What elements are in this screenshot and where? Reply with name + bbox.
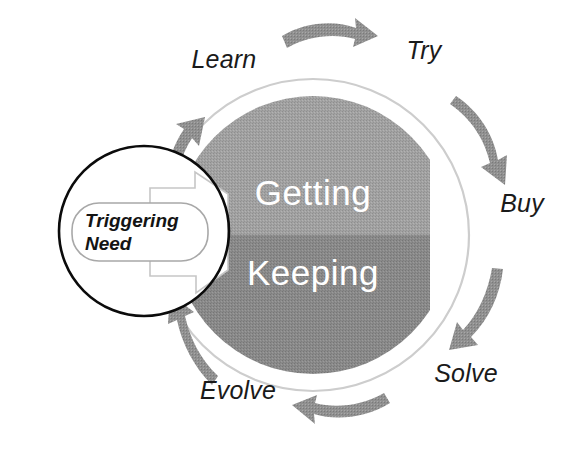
arrow-lower-right xyxy=(449,268,503,350)
trigger-label-line1: Triggering xyxy=(85,210,179,231)
diagram-canvas: Triggering Need Getting Keeping Learn Tr… xyxy=(0,0,571,452)
stage-label-evolve: Evolve xyxy=(200,376,276,404)
arrow-upper-right xyxy=(450,96,507,185)
stage-label-buy: Buy xyxy=(500,189,545,217)
core-label-getting: Getting xyxy=(255,173,371,212)
triggering-need-group: Triggering Need xyxy=(59,146,229,316)
cycle-diagram-svg: Triggering Need Getting Keeping Learn Tr… xyxy=(0,0,571,452)
stage-label-try: Try xyxy=(407,36,443,64)
stage-label-learn: Learn xyxy=(192,45,257,73)
arrow-bottom xyxy=(292,393,390,424)
trigger-label-line2: Need xyxy=(85,233,132,254)
arrow-top xyxy=(282,18,378,48)
core-label-keeping: Keeping xyxy=(247,253,379,292)
stage-label-solve: Solve xyxy=(434,359,498,387)
